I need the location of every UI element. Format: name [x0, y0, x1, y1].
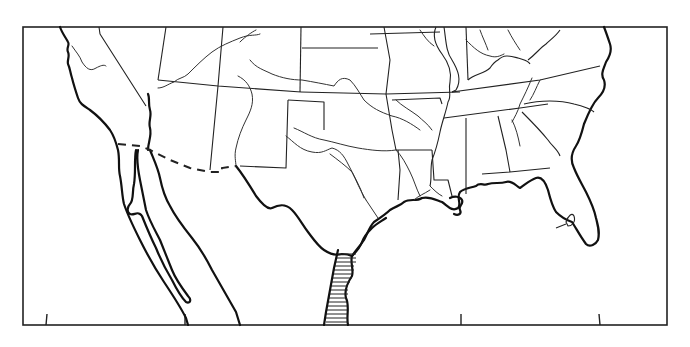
bottom-ticks [46, 314, 600, 325]
map-figure [0, 0, 690, 347]
texas-coastline [352, 218, 386, 256]
state-boundaries [99, 27, 600, 228]
map-canvas [0, 0, 690, 347]
mississippi-delta [450, 197, 462, 215]
gulf-of-california-east-shore [150, 150, 240, 325]
colorado-river [148, 94, 151, 150]
gulf-of-mexico-coastline [345, 27, 610, 325]
rio-grande [236, 166, 352, 256]
